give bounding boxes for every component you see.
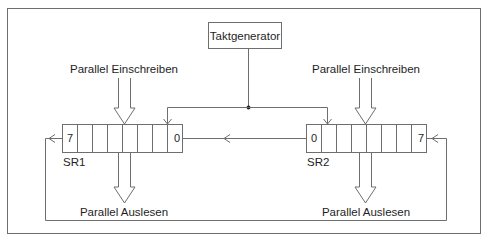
- sr1-cells: [63, 125, 183, 153]
- shift-register-diagram: Taktgenerator Parallel Einschreiben 7 0 …: [0, 0, 491, 238]
- sr1-parallel-output-arrow: [114, 152, 135, 203]
- clock-generator-label: Taktgenerator: [210, 30, 280, 42]
- sr2-cell: [322, 125, 337, 153]
- sr2-cell: [337, 125, 352, 153]
- sr1-cell: [93, 125, 108, 153]
- sr1-input-label: Parallel Einschreiben: [70, 63, 178, 75]
- sr1-output-label: Parallel Auslesen: [80, 206, 168, 218]
- sr2-cell: [352, 125, 367, 153]
- sr1-parallel-input-arrow: [114, 78, 135, 124]
- shift-register-sr1: Parallel Einschreiben 7 0 SR1 Parallel A…: [63, 63, 183, 218]
- sr2-cells: [307, 125, 427, 153]
- sr2-name-label: SR2: [307, 156, 329, 168]
- sr2-cell: [382, 125, 397, 153]
- sr1-cell: [108, 125, 123, 153]
- sr2-input-label: Parallel Einschreiben: [312, 63, 420, 75]
- sr1-name-label: SR1: [63, 156, 85, 168]
- clock-line-sr1: [168, 108, 249, 125]
- clock-generator: Taktgenerator: [209, 23, 282, 49]
- sr2-right-bit: 7: [418, 132, 424, 144]
- sr2-left-bit: 0: [311, 132, 317, 144]
- clock-line-sr2: [249, 108, 328, 125]
- shift-register-sr2: Parallel Einschreiben 0 7 SR2 Parallel A…: [307, 63, 427, 218]
- sr1-cell: [138, 125, 153, 153]
- sr2-parallel-output-arrow: [355, 152, 376, 203]
- sr1-cell: [78, 125, 93, 153]
- sr2-parallel-input-arrow: [355, 78, 376, 124]
- sr2-cell: [397, 125, 412, 153]
- serial-shift-line: [183, 135, 306, 143]
- sr2-output-label: Parallel Auslesen: [322, 206, 410, 218]
- sr2-cell: [367, 125, 382, 153]
- clock-lines: [164, 48, 332, 124]
- sr1-left-bit: 7: [67, 132, 73, 144]
- sr1-cell: [123, 125, 138, 153]
- sr1-right-bit: 0: [174, 132, 180, 144]
- sr1-cell: [153, 125, 168, 153]
